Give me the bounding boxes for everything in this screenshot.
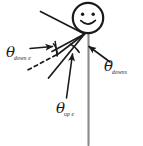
smiley-face-head [73, 3, 103, 33]
theta-subscript: down e [14, 55, 31, 61]
angle-diagram-figure: θdown e θdowns θup e [0, 0, 143, 146]
theta-down-e-label: θdown e [6, 44, 32, 60]
theta-subscript: up e [64, 111, 74, 117]
theta-downs-label: θdowns [104, 58, 128, 74]
theta-up-e-label: θup e [56, 100, 75, 116]
bottom-pointer-arrow [67, 54, 73, 98]
left-pointer-arrow [30, 47, 53, 49]
theta-subscript: downs [112, 69, 127, 75]
right-eye [92, 13, 95, 16]
left-eye [81, 13, 84, 16]
